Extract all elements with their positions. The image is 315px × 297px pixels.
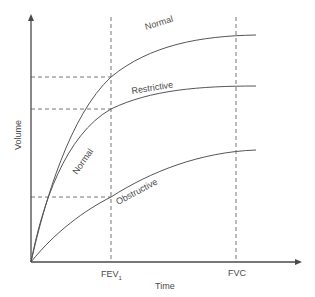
normal-curve-label-bottom: Normal [70, 147, 95, 177]
fev1-tick-label: FEV1 [101, 269, 123, 281]
obstructive-curve-label: Obstructive [114, 177, 159, 207]
fvc-tick-label: FVC [228, 268, 247, 278]
curves [31, 35, 256, 262]
y-axis-label: Volume [13, 120, 23, 150]
normal-curve-label-top: Normal [144, 14, 175, 32]
restrictive-curve [31, 86, 256, 262]
restrictive-curve-label: Restrictive [131, 80, 174, 96]
x-axis-label: Time [155, 281, 175, 291]
y-axis-arrow-icon [28, 14, 34, 21]
reference-lines [31, 17, 236, 262]
spirometry-diagram: Normal Restrictive Normal Obstructive Vo… [0, 0, 315, 297]
x-axis-arrow-icon [295, 259, 302, 265]
obstructive-curve [31, 150, 256, 262]
